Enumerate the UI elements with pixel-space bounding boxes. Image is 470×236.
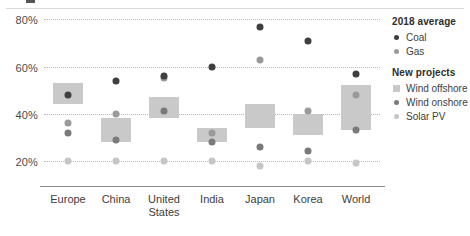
chart-column — [44, 10, 92, 175]
cropped-title-glyph — [26, 0, 35, 3]
data-point-wind-onshore — [161, 108, 168, 115]
data-point-solar-pv — [161, 157, 168, 164]
dot-icon — [392, 100, 401, 105]
legend-item-solar-pv[interactable]: Solar PV — [392, 109, 470, 123]
chart-column — [236, 10, 284, 175]
chart-column — [140, 10, 188, 175]
data-point-gas — [353, 91, 360, 98]
dot-icon — [392, 114, 401, 119]
chart-column — [284, 10, 332, 175]
data-point-wind-onshore — [209, 139, 216, 146]
legend-group-heading: 2018 average — [392, 16, 470, 27]
data-point-gas — [305, 108, 312, 115]
data-point-gas — [257, 56, 264, 63]
x-axis-labels: EuropeChinaUnited StatesIndiaJapanKoreaW… — [44, 193, 380, 229]
data-point-solar-pv — [257, 162, 264, 169]
legend-item-label: Solar PV — [406, 111, 445, 122]
y-axis-tick-label: 40% — [15, 109, 38, 121]
legend-item-wind-offshore[interactable]: Wind offshore — [392, 81, 470, 95]
y-axis-tick-label: 80% — [15, 14, 38, 26]
y-axis-tick-label: 60% — [15, 62, 38, 74]
legend-item-wind-onshore[interactable]: Wind onshore — [392, 95, 470, 109]
data-point-wind-onshore — [257, 143, 264, 150]
data-point-gas — [65, 120, 72, 127]
chart-column — [92, 10, 140, 175]
data-point-wind-onshore — [113, 136, 120, 143]
legend-item-coal[interactable]: Coal — [392, 30, 470, 44]
legend-item-label: Gas — [406, 46, 424, 57]
data-point-gas — [113, 110, 120, 117]
y-axis-tick-label: 20% — [15, 156, 38, 168]
x-axis-label: Europe — [50, 193, 85, 206]
x-axis-label: Korea — [293, 193, 322, 206]
legend-item-label: Wind offshore — [406, 83, 468, 94]
data-point-coal — [65, 91, 72, 98]
data-point-gas — [209, 129, 216, 136]
dot-icon — [392, 49, 401, 54]
figure: 80%60%40%20% EuropeChinaUnited StatesInd… — [0, 0, 470, 236]
legend-group-heading: New projects — [392, 67, 470, 78]
data-point-coal — [305, 37, 312, 44]
data-point-wind-onshore — [305, 148, 312, 155]
chart-column — [188, 10, 236, 175]
data-point-wind-onshore — [353, 127, 360, 134]
legend-item-label: Wind onshore — [406, 97, 468, 108]
data-point-coal — [209, 63, 216, 70]
chart-column — [332, 10, 380, 175]
data-point-solar-pv — [65, 157, 72, 164]
data-point-wind-onshore — [65, 129, 72, 136]
data-point-solar-pv — [209, 157, 216, 164]
legend: 2018 averageCoalGasNew projectsWind offs… — [392, 16, 470, 123]
dot-icon — [392, 35, 401, 40]
data-point-coal — [161, 73, 168, 80]
plot-area: 80%60%40%20% — [44, 10, 380, 175]
data-point-solar-pv — [113, 157, 120, 164]
x-axis-line — [40, 186, 385, 187]
data-point-coal — [353, 70, 360, 77]
x-axis-label: India — [200, 193, 224, 206]
data-point-solar-pv — [305, 157, 312, 164]
x-axis-label: United States — [148, 193, 180, 219]
data-point-coal — [113, 77, 120, 84]
header-divider — [6, 8, 464, 9]
x-axis-label: Japan — [245, 193, 275, 206]
legend-item-label: Coal — [406, 32, 427, 43]
legend-item-gas[interactable]: Gas — [392, 44, 470, 58]
data-point-solar-pv — [353, 160, 360, 167]
wind-offshore-range-box — [293, 114, 323, 135]
x-axis-label: World — [342, 193, 371, 206]
data-point-coal — [257, 23, 264, 30]
x-axis-label: China — [102, 193, 131, 206]
wind-offshore-range-box — [245, 104, 275, 128]
square-icon — [392, 85, 401, 92]
